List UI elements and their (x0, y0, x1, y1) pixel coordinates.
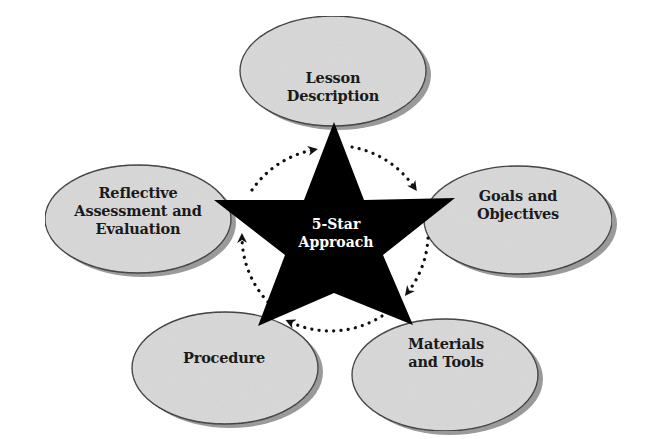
label-line: Description (287, 87, 379, 105)
label-line: Procedure (183, 349, 265, 367)
label-line: Goals and (477, 187, 559, 205)
label-reflective-assessment: Reflective Assessment and Evaluation (74, 184, 201, 238)
label-line: Objectives (477, 205, 559, 223)
five-star-diagram: Lesson Description Goals and Objectives … (0, 0, 654, 439)
label-materials-and-tools: Materials and Tools (408, 335, 484, 371)
center-label-line: 5-Star (299, 215, 374, 233)
arrow-left-to-top (252, 150, 313, 190)
arrow-bottomleft-to-left (242, 238, 268, 302)
center-label: 5-Star Approach (299, 215, 374, 251)
arrow-right-to-bottomright (408, 238, 428, 292)
label-lesson-description: Lesson Description (287, 69, 379, 105)
label-line: Assessment and (74, 202, 201, 220)
label-line: and Tools (408, 353, 484, 371)
label-line: Lesson (287, 69, 379, 87)
arrow-bottomright-to-bottomleft (290, 316, 382, 331)
label-goals-and-objectives: Goals and Objectives (477, 187, 559, 223)
label-line: Materials (408, 335, 484, 353)
ellipse-procedure[interactable] (132, 312, 318, 424)
label-procedure: Procedure (183, 349, 265, 367)
center-label-line: Approach (299, 233, 374, 251)
label-line: Evaluation (74, 220, 201, 238)
label-line: Reflective (74, 184, 201, 202)
